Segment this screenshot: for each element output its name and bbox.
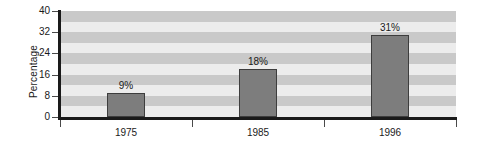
y-axis-tick <box>52 53 58 54</box>
x-axis-tick <box>324 120 325 127</box>
bar-value-label: 18% <box>228 56 288 67</box>
y-axis-line <box>58 10 61 118</box>
x-axis-line <box>58 117 457 120</box>
y-axis-tick-label: 40 <box>16 6 50 16</box>
y-axis-tick-label: 0 <box>16 112 50 122</box>
bar-chart: Percentage 081624324019759%198518%199631… <box>0 0 480 143</box>
y-axis-tick-label: 24 <box>16 48 50 58</box>
bar <box>107 93 145 117</box>
bar-value-label: 31% <box>360 22 420 33</box>
bar-value-label: 9% <box>96 80 156 91</box>
x-axis-tick-label: 1996 <box>355 127 425 139</box>
y-axis-tick <box>52 32 58 33</box>
x-axis-tick <box>60 120 61 127</box>
x-axis-tick <box>192 120 193 127</box>
bar <box>371 35 409 117</box>
y-axis-tick <box>52 11 58 12</box>
x-axis-tick-label: 1985 <box>223 127 293 139</box>
y-axis-tick-label: 8 <box>16 91 50 101</box>
y-axis-tick <box>52 96 58 97</box>
y-axis-tick <box>52 75 58 76</box>
grid-band <box>60 11 456 22</box>
y-axis-tick-label: 32 <box>16 27 50 37</box>
y-axis-tick <box>52 117 58 118</box>
x-axis-tick-label: 1975 <box>91 127 161 139</box>
x-axis-tick <box>456 120 457 127</box>
y-axis-tick-label: 16 <box>16 70 50 80</box>
bar <box>239 69 277 117</box>
